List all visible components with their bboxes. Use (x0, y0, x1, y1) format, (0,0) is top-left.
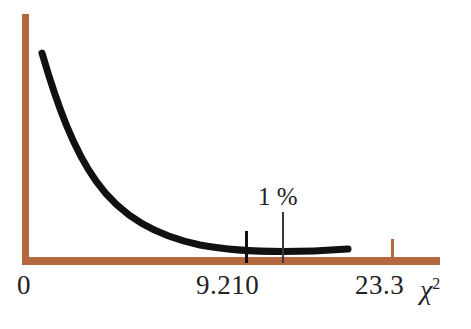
tick-observed-value (391, 239, 394, 259)
x-axis (22, 257, 440, 265)
x-tick-label-zero: 0 (17, 272, 31, 299)
y-axis (22, 14, 29, 265)
tick-critical-value (245, 231, 248, 263)
tail-area-annotation-label: 1 % (258, 184, 298, 209)
chi-square-chart: 0 9.210 23.3 χ2 1 % (0, 0, 471, 329)
x-tick-label-observed-value: 23.3 (355, 272, 404, 299)
x-axis-title-exponent: 2 (432, 275, 440, 292)
distribution-curve (42, 53, 348, 252)
x-axis-title-symbol: χ (420, 274, 432, 305)
tail-annotation-leader-line (282, 212, 284, 263)
x-tick-label-critical-value: 9.210 (196, 272, 259, 299)
x-axis-title: χ2 (420, 276, 440, 304)
